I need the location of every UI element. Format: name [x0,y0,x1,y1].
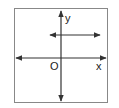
x-axis-label: x [96,60,102,72]
origin-label: O [50,60,59,72]
coordinate-diagram: y x O [0,0,119,108]
y-axis-label: y [65,12,71,24]
